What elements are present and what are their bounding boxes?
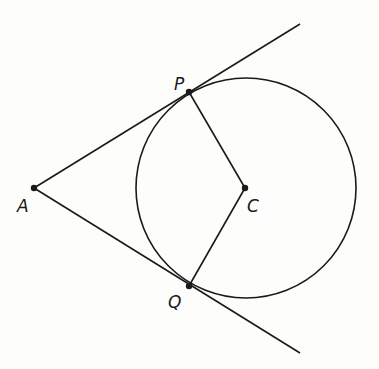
point-p [186,89,192,95]
point-c [242,185,248,191]
radius-cq [189,188,245,286]
radius-cp [189,92,245,188]
label-q: Q [168,292,181,312]
geometry-diagram: A P C Q [0,0,379,369]
tangent-line-aq [34,188,300,353]
point-a [31,185,37,191]
label-c: C [247,196,259,216]
tangent-line-ap [34,24,300,188]
label-a: A [16,196,29,216]
label-p: P [174,74,185,94]
point-q [186,283,192,289]
